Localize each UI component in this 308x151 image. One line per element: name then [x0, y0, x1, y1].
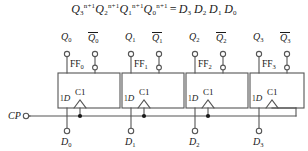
input-label-d0: D0 [61, 137, 71, 149]
clock-triangle-0 [74, 100, 86, 108]
inversion-bubble-1 [157, 65, 162, 70]
clock-triangle-1 [138, 100, 150, 108]
pin-label-c1-1: C1 [139, 88, 150, 97]
flipflop-label-2: FF2 [198, 60, 212, 71]
junction-dot-1 [142, 114, 146, 118]
clock-input-label: CP [8, 111, 21, 121]
pin-label-1d-2: 1D [188, 94, 198, 103]
output-label-qbar0: Q0 [88, 32, 98, 45]
input-label-d1: D1 [125, 137, 135, 149]
inversion-bubble-2 [221, 65, 226, 70]
pin-label-c1-3: C1 [267, 88, 278, 97]
q-terminal-3 [256, 51, 261, 56]
d-terminal-3 [256, 128, 261, 133]
output-label-q1: Q1 [125, 32, 135, 44]
q-terminal-2 [192, 51, 197, 56]
output-label-qbar2: Q2 [216, 32, 226, 45]
inversion-bubble-0 [93, 65, 98, 70]
pin-label-c1-0: C1 [75, 88, 86, 97]
output-label-qbar1: Q1 [152, 32, 162, 45]
pin-label-c1-2: C1 [203, 88, 214, 97]
input-label-d2: D2 [189, 137, 199, 149]
figure-canvas: Q3n+1Q2n+1Q1n+1Q0n+1=D3 D2 D1 D0 [0, 0, 308, 151]
output-label-q2: Q2 [189, 32, 199, 44]
clock-triangle-3 [266, 100, 278, 108]
qbar-terminal-2 [220, 51, 225, 56]
pin-label-1d-0: 1D [60, 94, 70, 103]
pin-label-1d-3: 1D [252, 94, 262, 103]
logic-diagram [0, 0, 308, 151]
pin-label-1d-1: 1D [124, 94, 134, 103]
output-label-q3: Q3 [253, 32, 263, 44]
q-terminal-0 [64, 51, 69, 56]
output-label-qbar3: Q3 [280, 32, 290, 45]
flipflop-label-3: FF3 [262, 60, 276, 71]
d-terminal-2 [192, 128, 197, 133]
flipflop-label-1: FF1 [134, 60, 148, 71]
output-label-q0: Q0 [61, 32, 71, 44]
qbar-terminal-1 [156, 51, 161, 56]
cp-terminal [23, 113, 28, 118]
clock-triangle-2 [202, 100, 214, 108]
q-terminal-1 [128, 51, 133, 56]
junction-dot-2 [206, 114, 210, 118]
inversion-bubble-3 [285, 65, 290, 70]
flipflop-label-0: FF0 [70, 60, 84, 71]
input-label-d3: D3 [253, 137, 263, 149]
d-terminal-0 [64, 128, 69, 133]
qbar-terminal-3 [284, 51, 289, 56]
qbar-terminal-0 [92, 51, 97, 56]
junction-dot-0 [78, 114, 82, 118]
d-terminal-1 [128, 128, 133, 133]
